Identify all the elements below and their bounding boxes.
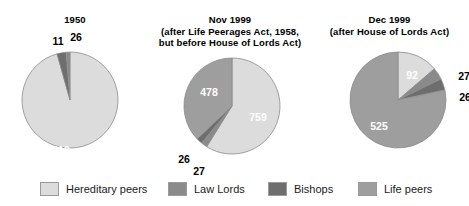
chart-title-line-2: (after House of Lords Act) xyxy=(310,26,469,38)
legend-swatch-icon-bishops xyxy=(268,182,287,196)
legend-swatch-icon-hereditary xyxy=(40,182,59,196)
pie-value-label-law-lords: 11 xyxy=(52,35,63,47)
legend-label-bishops: Bishops xyxy=(294,183,333,195)
pie-value-label-hereditary: 759 xyxy=(249,111,267,123)
legend-label-hereditary: Hereditary peers xyxy=(66,183,147,195)
pie-value-label-law-lords: 27 xyxy=(458,70,469,82)
legend-label-life-peers: Life peers xyxy=(384,183,432,195)
chart-title-1950: 1950 xyxy=(0,14,150,26)
legend-item-bishops[interactable]: Bishops xyxy=(268,180,333,198)
pie-value-label-bishops: 26 xyxy=(459,91,469,103)
pie-svg-dec-1999: 92 27 26 525 xyxy=(348,50,448,150)
chart-title-line-1: Dec 1999 xyxy=(310,14,469,26)
pie-value-label-hereditary: 92 xyxy=(406,69,418,81)
pie-dec-1999: 92 27 26 525 xyxy=(348,50,448,150)
pie-svg-1950: 810 26 11 xyxy=(20,50,120,150)
pie-value-label-bishops: 26 xyxy=(178,153,190,165)
pie-chart-figure: 1950 810 26 11 Nov 1999 (after Life Peer… xyxy=(0,0,469,206)
pie-1950: 810 26 11 xyxy=(20,50,120,150)
chart-panel-nov-1999: Nov 1999 (after Life Peerages Act, 1958,… xyxy=(150,0,310,175)
legend-item-life-peers[interactable]: Life peers xyxy=(358,180,432,198)
pie-value-label-bishops: 26 xyxy=(70,31,82,43)
chart-title-nov-1999: Nov 1999 (after Life Peerages Act, 1958,… xyxy=(150,14,310,49)
legend-swatch-icon-life-peers xyxy=(358,182,377,196)
chart-title-line-2: (after Life Peerages Act, 1958, xyxy=(150,26,310,38)
chart-panel-1950: 1950 810 26 11 xyxy=(0,0,150,175)
legend-label-law-lords: Law Lords xyxy=(194,183,245,195)
pie-nov-1999: 759 27 26 478 xyxy=(182,56,282,156)
pie-value-label-life-peers: 478 xyxy=(200,86,218,98)
pie-value-label-life-peers: 525 xyxy=(370,120,388,132)
chart-title-line-3: but before House of Lords Act) xyxy=(150,37,310,49)
legend-swatch-icon-law-lords xyxy=(168,182,187,196)
pie-value-label-hereditary: 810 xyxy=(52,144,70,156)
chart-title-line-1: 1950 xyxy=(0,14,150,26)
chart-panel-dec-1999: Dec 1999 (after House of Lords Act) 92 2… xyxy=(310,0,469,175)
pie-svg-nov-1999: 759 27 26 478 xyxy=(182,56,282,156)
chart-legend: Hereditary peers Law Lords Bishops Life … xyxy=(0,180,469,202)
legend-item-hereditary-peers[interactable]: Hereditary peers xyxy=(40,180,147,198)
legend-item-law-lords[interactable]: Law Lords xyxy=(168,180,245,198)
chart-title-line-1: Nov 1999 xyxy=(150,14,310,26)
pie-value-label-law-lords: 27 xyxy=(193,165,205,177)
chart-title-dec-1999: Dec 1999 (after House of Lords Act) xyxy=(310,14,469,37)
